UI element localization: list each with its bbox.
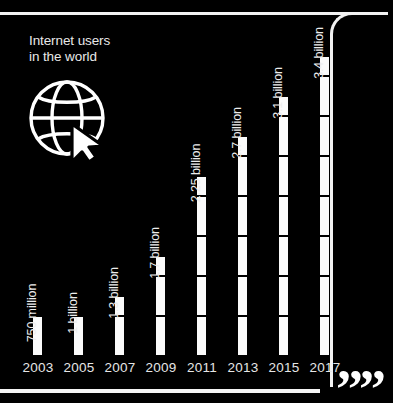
internet-users-infographic: ” ” Internet users in the world 750 mill… [0,0,393,403]
bar-column: 1.7 billion [141,0,181,355]
bar-value-label: 1 billion [68,292,79,334]
bar-value-label: 1.7 billion [150,227,161,279]
x-axis-tick-label: 2013 [223,360,263,376]
bar-value-label: 2.25 billion [191,144,202,203]
bar-value-label: 1.3 billion [109,267,120,319]
x-axis-tick-label: 2009 [141,360,181,376]
x-axis-tick-label: 2007 [100,360,140,376]
bar-2011 [197,177,206,355]
bar-value-label: 3.4 billion [314,27,325,79]
bar-column: 2.7 billion [223,0,263,355]
x-axis-tick-label: 2005 [59,360,99,376]
x-axis-tick-label: 2003 [18,360,58,376]
bar-chart: 750 million 1 billion 1.3 billion 1.7 bi… [0,0,393,403]
bar-column: 3.4 billion [305,0,345,355]
bar-column: 2.25 billion [182,0,222,355]
x-axis-tick-label: 2017 [305,360,345,376]
bar-2017 [320,57,329,355]
bar-value-label: 3.1 billion [273,67,284,119]
bar-value-label: 750 million [27,284,38,343]
bar-2013 [238,137,247,355]
bar-column: 1.3 billion [100,0,140,355]
bar-column: 1 billion [59,0,99,355]
x-axis-tick-label: 2015 [264,360,304,376]
bar-column: 3.1 billion [264,0,304,355]
x-axis-tick-label: 2011 [182,360,222,376]
bar-value-label: 2.7 billion [232,107,243,159]
bar-column: 750 million [18,0,58,355]
bar-2015 [279,97,288,355]
